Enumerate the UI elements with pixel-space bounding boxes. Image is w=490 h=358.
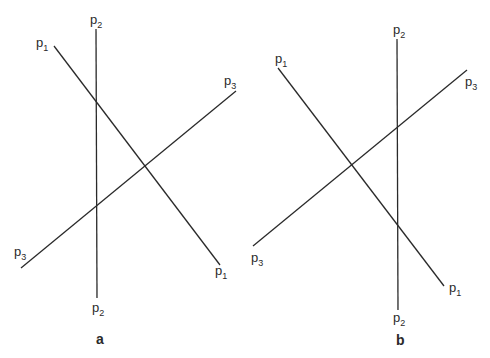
line-p3-a (21, 91, 236, 268)
panel-a: p1 p2 p3 p3 p1 p2 a (14, 12, 236, 347)
panel-b: p1 p2 p3 p3 p1 p2 b (251, 22, 477, 348)
label-p1-top-a: p1 (36, 35, 48, 53)
line-p2-a (96, 29, 97, 298)
label-p2-top-b: p2 (393, 22, 405, 40)
line-p3-b (253, 70, 467, 246)
label-p2-bottom-b: p2 (393, 310, 405, 328)
label-p2-top-a: p2 (90, 12, 102, 30)
label-p3-top-a: p3 (224, 73, 236, 91)
line-p1-b (278, 68, 444, 286)
label-p2-bottom-a: p2 (92, 300, 104, 318)
panel-label-b: b (396, 332, 405, 348)
line-p2-b (397, 39, 398, 310)
panel-label-a: a (96, 331, 104, 347)
label-p3-bottom-b: p3 (251, 250, 263, 268)
label-p1-bottom-b: p1 (449, 280, 461, 298)
line-p1-a (54, 46, 220, 265)
label-p3-top-b: p3 (465, 74, 477, 92)
label-p3-bottom-a: p3 (14, 244, 26, 262)
label-p1-top-b: p1 (275, 51, 287, 69)
figure-canvas: p1 p2 p3 p3 p1 p2 a p1 p2 p3 p3 p1 p2 b (0, 0, 490, 358)
label-p1-bottom-a: p1 (215, 263, 227, 281)
